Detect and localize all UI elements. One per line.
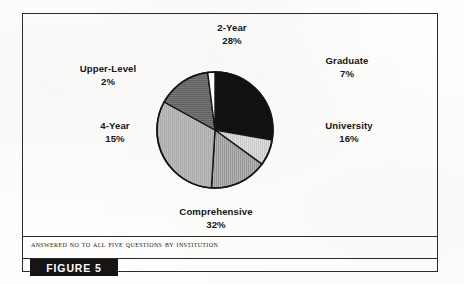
pie-chart-area: 2-Year 28% Graduate 7% University 16% Co…: [22, 14, 438, 236]
pie-label-upper-level-name: Upper-Level: [64, 63, 152, 76]
pie-label-4-year-name: 4-Year: [82, 120, 148, 133]
pie-label-university-name: University: [307, 120, 391, 133]
pie-label-university: University 16%: [307, 120, 391, 145]
pie-label-graduate: Graduate 7%: [307, 55, 387, 80]
figure-number-label: FIGURE 5: [46, 262, 102, 274]
pie-slice-2-year[interactable]: [215, 72, 273, 140]
figure-page: 2-Year 28% Graduate 7% University 16% Co…: [0, 0, 464, 284]
pie-label-2-year: 2-Year 28%: [197, 22, 267, 47]
pie-label-university-percent: 16%: [307, 133, 391, 146]
pie-label-4-year: 4-Year 15%: [82, 120, 148, 145]
pie-label-graduate-percent: 7%: [307, 68, 387, 81]
pie-label-comprehensive: Comprehensive 32%: [164, 206, 268, 231]
pie-label-comprehensive-name: Comprehensive: [164, 206, 268, 219]
pie-label-graduate-name: Graduate: [307, 55, 387, 68]
pie-label-upper-level-percent: 2%: [64, 76, 152, 89]
figure-caption: Answered No to All Five Questions by Ins…: [31, 239, 218, 249]
pie-label-comprehensive-percent: 32%: [164, 219, 268, 232]
caption-divider-line: [22, 236, 438, 237]
pie-label-upper-level: Upper-Level 2%: [64, 63, 152, 88]
figure-number-badge: FIGURE 5: [30, 259, 118, 276]
pie-label-2-year-name: 2-Year: [197, 22, 267, 35]
pie-label-4-year-percent: 15%: [82, 133, 148, 146]
pie-label-2-year-percent: 28%: [197, 35, 267, 48]
